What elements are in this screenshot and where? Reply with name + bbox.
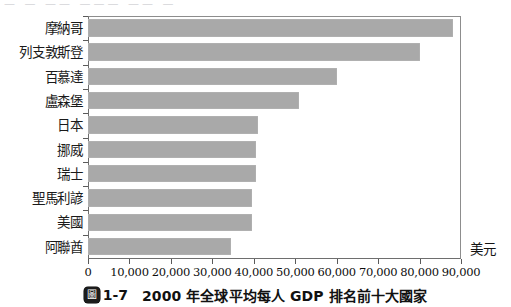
category-label-10: 阿聯酋	[0, 235, 83, 259]
x-tick-mark	[88, 259, 89, 264]
y-tick-mark	[83, 40, 88, 41]
bar-5	[88, 116, 258, 133]
category-label-7: 瑞士	[0, 162, 83, 186]
category-label-6: 挪威	[0, 138, 83, 162]
category-label-2: 列支敦斯登	[0, 40, 83, 64]
category-label-1: 摩納哥	[0, 16, 83, 40]
y-tick-mark	[83, 89, 88, 90]
axis-unit-label: 美元	[470, 238, 496, 258]
category-label-8: 聖馬利諺	[0, 186, 83, 210]
figure-caption: 圖 1-7 2000 年全球平均每人 GDP 排名前十大國家	[0, 283, 511, 307]
bar-row	[88, 40, 461, 64]
y-tick-mark	[83, 138, 88, 139]
category-label-4: 盧森堡	[0, 89, 83, 113]
y-tick-mark	[83, 113, 88, 114]
x-tick-mark	[254, 259, 255, 264]
bar-row	[88, 186, 461, 210]
x-tick-mark	[461, 259, 462, 264]
bar-9	[88, 214, 252, 231]
x-tick-mark	[295, 259, 296, 264]
bar-row	[88, 162, 461, 186]
x-tick-mark	[212, 259, 213, 264]
x-tick-label-1: 10,000	[110, 265, 148, 279]
bar-2	[88, 43, 420, 60]
x-tick-mark	[129, 259, 130, 264]
bar-3	[88, 68, 337, 85]
bar-row	[88, 65, 461, 89]
y-tick-mark	[83, 210, 88, 211]
bar-4	[88, 92, 299, 109]
x-tick-label-3: 30,000	[193, 265, 231, 279]
bar-row	[88, 210, 461, 234]
y-tick-mark	[83, 65, 88, 66]
category-label-3: 百慕達	[0, 65, 83, 89]
bar-10	[88, 238, 231, 255]
bar-1	[88, 19, 453, 36]
x-tick-label-8: 80,000	[400, 265, 438, 279]
category-label-9: 美國	[0, 210, 83, 234]
x-tick-label-5: 50,000	[276, 265, 314, 279]
y-tick-mark	[83, 235, 88, 236]
figure-number: 1-7	[103, 287, 128, 303]
x-tick-mark	[420, 259, 421, 264]
x-tick-label-2: 20,000	[152, 265, 190, 279]
bar-row	[88, 138, 461, 162]
y-tick-mark	[83, 162, 88, 163]
bar-row	[88, 113, 461, 137]
bar-row	[88, 89, 461, 113]
x-tick-label-7: 70,000	[359, 265, 397, 279]
x-tick-label-6: 60,000	[317, 265, 355, 279]
x-tick-label-0: 0	[84, 265, 91, 279]
x-tick-mark	[171, 259, 172, 264]
y-tick-mark	[83, 16, 88, 17]
x-tick-mark	[378, 259, 379, 264]
x-tick-label-9: 90,000	[442, 265, 480, 279]
bar-series	[88, 16, 461, 259]
bar-row	[88, 235, 461, 259]
figure-caption-text: 2000 年全球平均每人 GDP 排名前十大國家	[142, 285, 427, 305]
figure-1-7: 摩納哥列支敦斯登百慕達盧森堡日本挪威瑞士聖馬利諺美國阿聯酋 010,00020,…	[0, 0, 511, 307]
bar-row	[88, 16, 461, 40]
bar-8	[88, 189, 252, 206]
x-tick-mark	[337, 259, 338, 264]
figure-badge-icon: 圖	[84, 287, 100, 303]
x-tick-label-4: 40,000	[235, 265, 273, 279]
bar-6	[88, 141, 256, 158]
bar-7	[88, 165, 256, 182]
category-axis-labels: 摩納哥列支敦斯登百慕達盧森堡日本挪威瑞士聖馬利諺美國阿聯酋	[0, 16, 83, 259]
y-tick-mark	[83, 186, 88, 187]
category-label-5: 日本	[0, 113, 83, 137]
